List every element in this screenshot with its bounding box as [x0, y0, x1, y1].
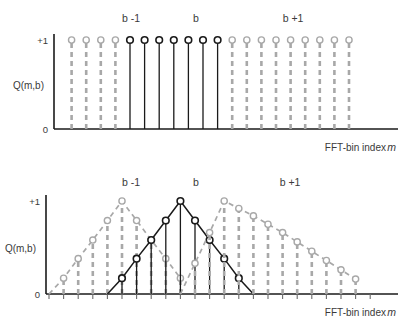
figure-q-m-b: +10Q(m,b)FFT-bin indexmb -1bb +1 +10Q(m,…	[0, 0, 406, 328]
data-point-marker	[192, 217, 199, 224]
group-label-center: b	[193, 176, 199, 188]
data-point-marker	[119, 198, 125, 204]
group-label-right: b +1	[280, 176, 301, 188]
data-point-marker	[90, 237, 96, 243]
y-axis-label: Q(m,b)	[13, 80, 44, 91]
data-point-marker	[134, 217, 140, 223]
series-3	[180, 198, 358, 294]
data-point-marker	[192, 260, 198, 266]
group-label-right: b +1	[283, 12, 304, 24]
data-point-marker	[288, 37, 294, 43]
x-axis-label-variable: m	[387, 141, 396, 153]
data-point-marker	[229, 37, 235, 43]
y-axis-label: Q(m,b)	[5, 243, 36, 254]
data-point-marker	[156, 37, 163, 44]
data-point-marker	[163, 217, 170, 224]
data-point-marker	[75, 256, 81, 262]
data-point-marker	[141, 37, 148, 44]
series-3	[229, 37, 352, 129]
data-point-marker	[98, 37, 104, 43]
data-point-marker	[133, 255, 140, 262]
data-point-marker	[200, 37, 207, 44]
data-point-marker	[214, 37, 221, 44]
data-point-marker	[119, 275, 126, 282]
data-point-marker	[346, 37, 352, 43]
data-point-marker	[244, 37, 250, 43]
data-point-marker	[104, 217, 110, 223]
data-point-marker	[273, 37, 279, 43]
series-2	[127, 37, 221, 129]
plot-area: +10Q(m,b)FFT-bin indexmb -1bb +1	[13, 12, 398, 153]
series-line	[49, 201, 180, 294]
data-point-marker	[294, 239, 300, 245]
data-point-marker	[185, 37, 192, 44]
data-point-marker	[112, 37, 118, 43]
x-axis-label: FFT-bin index	[325, 307, 386, 318]
data-point-marker	[171, 37, 178, 44]
plot-area: +10Q(m,b)FFT-bin indexmb -1bb +1	[5, 176, 398, 318]
group-label-center: b	[193, 12, 199, 24]
data-point-marker	[258, 37, 264, 43]
series-1	[49, 198, 183, 294]
chart-svg-triangular: +10Q(m,b)FFT-bin indexmb -1bb +1	[0, 164, 406, 328]
data-point-marker	[207, 230, 213, 236]
data-point-marker	[83, 37, 89, 43]
x-axis-label-variable: m	[387, 306, 396, 318]
data-point-marker	[309, 248, 315, 254]
chart-panel-triangular: +10Q(m,b)FFT-bin indexmb -1bb +1	[0, 164, 406, 328]
y-tick-label-top: +1	[37, 35, 48, 46]
data-point-marker	[353, 276, 359, 282]
data-point-marker	[280, 230, 286, 236]
data-point-marker	[317, 37, 323, 43]
data-point-marker	[338, 267, 344, 273]
data-point-marker	[265, 221, 271, 227]
x-axis-label: FFT-bin index	[325, 142, 386, 153]
data-point-marker	[177, 198, 184, 205]
group-label-left: b -1	[122, 176, 140, 188]
data-point-marker	[127, 37, 134, 44]
data-point-marker	[61, 275, 67, 281]
data-point-marker	[250, 213, 256, 219]
y-tick-label-bottom: 0	[43, 124, 48, 135]
data-point-marker	[302, 37, 308, 43]
chart-panel-rectangular: +10Q(m,b)FFT-bin indexmb -1bb +1	[0, 0, 406, 164]
group-label-left: b -1	[122, 12, 140, 24]
data-point-marker	[331, 37, 337, 43]
data-point-marker	[323, 257, 329, 263]
chart-svg-rectangular: +10Q(m,b)FFT-bin indexmb -1bb +1	[0, 0, 406, 164]
data-point-marker	[69, 37, 75, 43]
series-2	[107, 198, 253, 294]
data-point-marker	[236, 205, 242, 211]
y-tick-label-bottom: 0	[35, 289, 40, 300]
data-point-marker	[148, 237, 155, 244]
data-point-marker	[221, 198, 227, 204]
y-tick-label-top: +1	[29, 196, 40, 207]
series-1	[69, 37, 119, 129]
